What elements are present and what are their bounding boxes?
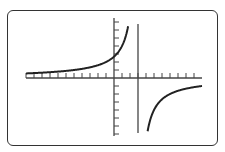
function-plot — [0, 0, 225, 152]
curve-right-branch — [148, 86, 202, 131]
curve-left-branch — [26, 26, 128, 73]
